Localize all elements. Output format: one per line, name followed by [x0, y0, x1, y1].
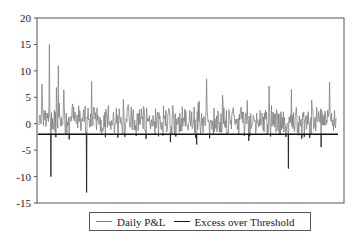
legend-swatch-daily-pnl: [96, 221, 112, 222]
y-axis: 20151050-5-10-15: [16, 12, 37, 209]
y-tick-label: 5: [26, 91, 32, 103]
y-tick-label: -10: [16, 171, 31, 183]
y-tick-label: 20: [20, 12, 32, 24]
chart-plot: 20151050-5-10-15: [0, 0, 358, 212]
plot-frame: [37, 18, 344, 203]
daily-pnl-series: [39, 44, 336, 192]
y-tick-label: 0: [26, 118, 32, 130]
legend-label-daily-pnl: Daily P&L: [117, 216, 166, 228]
y-tick-label: -5: [22, 144, 32, 156]
y-tick-label: -15: [16, 197, 31, 209]
legend-item-daily-pnl: Daily P&L: [96, 216, 166, 228]
legend-swatch-excess: [174, 221, 190, 222]
legend-label-excess: Excess over Threshold: [195, 216, 295, 228]
legend-item-excess: Excess over Threshold: [174, 216, 295, 228]
y-tick-label: 10: [20, 65, 32, 77]
y-tick-label: 15: [20, 38, 32, 50]
legend: Daily P&L Excess over Threshold: [89, 212, 311, 231]
excess-over-threshold-series: [51, 134, 321, 192]
